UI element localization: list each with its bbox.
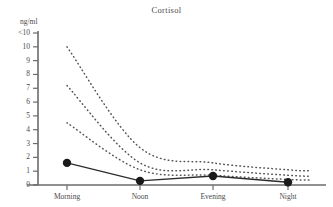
median-series-line bbox=[67, 163, 288, 182]
plot-area bbox=[0, 0, 333, 207]
reference-curves bbox=[67, 47, 310, 180]
cortisol-chart: Cortisol ng/ml <10109876543210 MorningNo… bbox=[0, 0, 333, 207]
axis-ticks bbox=[33, 33, 288, 190]
median-series-markers bbox=[63, 159, 292, 187]
